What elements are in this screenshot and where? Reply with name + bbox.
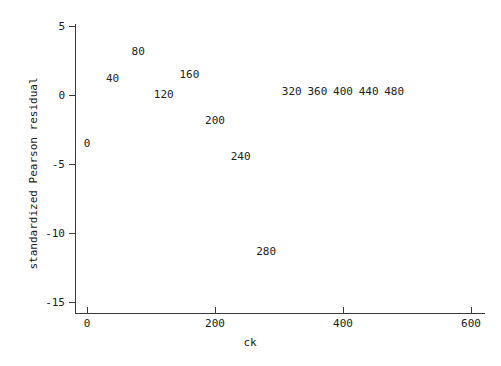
y-tick-mark bbox=[69, 302, 75, 303]
x-axis-line bbox=[75, 313, 485, 314]
data-point-label: 320 bbox=[282, 85, 302, 96]
data-point-label: 0 bbox=[84, 138, 91, 149]
scatter-plot-figure: 50-5-10-15 0200400600 040801201602002402… bbox=[0, 0, 501, 366]
data-point-label: 440 bbox=[359, 85, 379, 96]
data-point-label: 160 bbox=[179, 69, 199, 80]
x-tick-mark bbox=[343, 307, 344, 313]
data-point-label: 80 bbox=[132, 45, 145, 56]
data-point-label: 480 bbox=[384, 85, 404, 96]
y-tick-label-text: 5 bbox=[31, 21, 65, 32]
data-point-label: 200 bbox=[205, 114, 225, 125]
y-axis-line bbox=[75, 24, 76, 314]
y-tick-mark bbox=[69, 26, 75, 27]
x-tick-label: 200 bbox=[185, 318, 245, 329]
x-tick-label: 600 bbox=[441, 318, 501, 329]
data-point-label: 360 bbox=[307, 85, 327, 96]
data-point-label: 240 bbox=[231, 150, 251, 161]
data-point-label: 40 bbox=[106, 73, 119, 84]
x-tick-label: 400 bbox=[313, 318, 373, 329]
y-tick-label: 5 bbox=[20, 21, 65, 32]
x-tick-mark bbox=[471, 307, 472, 313]
x-axis-title: ck bbox=[210, 337, 290, 348]
x-tick-mark bbox=[87, 307, 88, 313]
x-tick-mark bbox=[215, 307, 216, 313]
y-axis-title: standardized Pearson residual bbox=[28, 49, 39, 299]
y-tick-mark bbox=[69, 164, 75, 165]
data-point-label: 400 bbox=[333, 85, 353, 96]
y-tick-mark bbox=[69, 233, 75, 234]
y-tick-mark bbox=[69, 95, 75, 96]
y-tick-label: -15 bbox=[20, 297, 65, 308]
y-tick-label-text: -15 bbox=[31, 297, 65, 308]
data-point-label: 280 bbox=[256, 245, 276, 256]
x-tick-label: 0 bbox=[57, 318, 117, 329]
data-point-label: 120 bbox=[154, 88, 174, 99]
